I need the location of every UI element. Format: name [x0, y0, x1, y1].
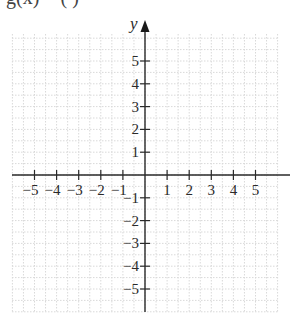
y-tick-label: −1: [123, 190, 139, 206]
x-tick-label: 4: [230, 182, 238, 198]
y-axis-arrow-icon: [141, 20, 150, 32]
y-tick-label: −5: [123, 281, 139, 297]
coordinate-plane-figure: g(x) = ( ) y −5−4−3−2−112345 54321−1−2−3…: [0, 0, 290, 314]
x-tick-label: 1: [163, 182, 171, 198]
x-ticks: −5−4−3−2−112345: [23, 170, 260, 198]
x-tick-label: 3: [208, 182, 216, 198]
y-tick-label: 3: [132, 99, 140, 115]
y-tick-label: −2: [123, 213, 139, 229]
x-tick-label: 2: [185, 182, 193, 198]
y-tick-label: 5: [132, 53, 140, 69]
y-axis-label: y: [128, 14, 138, 33]
coordinate-plane: y −5−4−3−2−112345 54321−1−2−3−4−5: [0, 0, 290, 314]
y-tick-label: 1: [132, 144, 140, 160]
x-tick-label: −5: [23, 182, 39, 198]
y-tick-label: −3: [123, 235, 139, 251]
y-tick-label: 2: [132, 121, 140, 137]
x-tick-label: −2: [89, 182, 105, 198]
x-tick-label: −4: [45, 182, 61, 198]
x-tick-label: −3: [67, 182, 83, 198]
y-tick-label: −4: [123, 258, 139, 274]
y-tick-label: 4: [132, 76, 140, 92]
x-tick-label: 5: [252, 182, 260, 198]
axes: y: [12, 14, 290, 312]
